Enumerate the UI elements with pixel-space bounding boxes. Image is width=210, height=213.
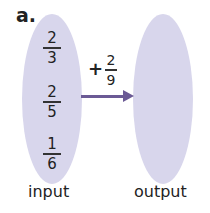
output-oval (133, 14, 193, 184)
fraction-bar (105, 69, 117, 71)
output-caption: output (134, 182, 187, 201)
numerator: 2 (37, 84, 67, 100)
denominator: 6 (37, 156, 67, 172)
arrow-right-icon (123, 90, 134, 102)
denominator: 5 (37, 104, 67, 120)
input-fraction: 2 3 (37, 30, 67, 66)
operation-fraction: 2 9 (99, 52, 123, 88)
arrow-shaft (81, 95, 125, 98)
numerator: 1 (37, 136, 67, 152)
numerator: 2 (37, 30, 67, 46)
input-fraction: 1 6 (37, 136, 67, 172)
part-label: a. (16, 4, 36, 26)
input-caption: input (28, 182, 69, 201)
numerator: 2 (99, 52, 123, 68)
input-fraction: 2 5 (37, 84, 67, 120)
denominator: 3 (37, 50, 67, 66)
denominator: 9 (99, 72, 123, 88)
